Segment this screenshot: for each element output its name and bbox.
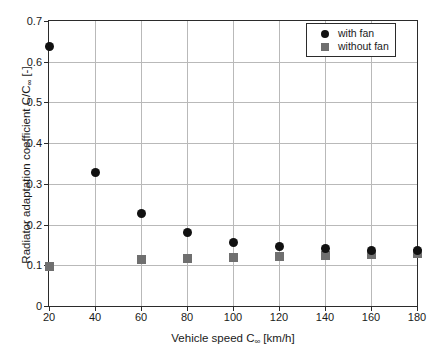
data-point-circle [183, 228, 192, 237]
data-point-circle [91, 168, 100, 177]
legend-item-with-fan: with fan [312, 27, 389, 40]
y-axis-title-pre: Radiator adaptation coefficient C/C [20, 85, 32, 263]
data-point-circle [413, 246, 422, 255]
x-axis-title-pre: Vehicle speed C [171, 332, 254, 344]
chart-figure: 00.10.20.30.40.50.60.7204060801001201401… [0, 0, 439, 358]
plot-area: 00.10.20.30.40.50.60.7204060801001201401… [48, 20, 418, 307]
gridline-vertical [233, 21, 234, 306]
y-axis-tick [44, 62, 49, 63]
y-axis-tick [44, 21, 49, 22]
x-axis-tick-label: 100 [224, 312, 242, 323]
x-axis-tick-label: 120 [270, 312, 288, 323]
data-point-square [45, 262, 54, 271]
legend-label-with-fan: with fan [338, 28, 374, 39]
data-point-circle [275, 242, 284, 251]
x-axis-tick-label: 80 [181, 312, 193, 323]
y-axis-title-sub: ∞ [25, 80, 34, 86]
x-axis-tick-label: 20 [43, 312, 55, 323]
chart-legend: with fan without fan [306, 23, 396, 57]
gridline-vertical [325, 21, 326, 306]
y-axis-title-post: [-] [20, 66, 32, 79]
x-axis-tick-label: 40 [89, 312, 101, 323]
legend-marker-square-icon [312, 43, 338, 51]
x-axis-tick-label: 140 [316, 312, 334, 323]
y-axis-title: Radiator adaptation coefficient C/C∞ [-] [20, 20, 36, 310]
legend-marker-circle-icon [312, 30, 338, 38]
y-axis-tick [44, 102, 49, 103]
legend-item-without-fan: without fan [312, 40, 389, 53]
data-point-circle [137, 209, 146, 218]
gridline-vertical [279, 21, 280, 306]
data-point-square [183, 254, 192, 263]
x-axis-tick-label: 180 [408, 312, 426, 323]
gridline-vertical [95, 21, 96, 306]
data-point-square [229, 253, 238, 262]
data-point-circle [45, 42, 54, 51]
y-axis-tick [44, 225, 49, 226]
legend-label-without-fan: without fan [338, 41, 389, 52]
x-axis-title-post: [km/h] [260, 332, 295, 344]
x-axis-title: Vehicle speed C∞ [km/h] [48, 332, 418, 348]
gridline-vertical [371, 21, 372, 306]
y-axis-tick [44, 184, 49, 185]
y-axis-tick-label: 0 [36, 301, 42, 312]
data-point-square [275, 252, 284, 261]
x-axis-tick-label: 160 [362, 312, 380, 323]
x-axis-tick-label: 60 [135, 312, 147, 323]
data-point-circle [367, 246, 376, 255]
data-point-circle [229, 238, 238, 247]
data-point-circle [321, 244, 330, 253]
data-point-square [137, 255, 146, 264]
y-axis-tick [44, 143, 49, 144]
